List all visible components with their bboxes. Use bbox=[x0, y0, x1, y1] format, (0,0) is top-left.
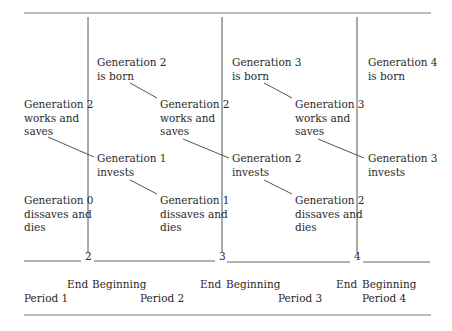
label-gen2-works-p1: Generation 2 works and saves bbox=[24, 98, 94, 139]
label-gen4-born: Generation 4 is born bbox=[368, 56, 438, 83]
axis-label-end: End bbox=[67, 278, 88, 292]
axis-label-period-2: Period 2 bbox=[140, 292, 184, 306]
connector-gen3-born-to-works bbox=[264, 83, 292, 98]
axis-label-period-1: Period 1 bbox=[24, 292, 68, 306]
connector-gen2-born-to-works bbox=[130, 83, 157, 98]
axis-label-beginning: Beginning bbox=[92, 278, 146, 292]
connector-gen2-invests-to-dies bbox=[264, 180, 292, 194]
boundary-number-4: 4 bbox=[354, 250, 361, 262]
label-gen1-invests: Generation 1 invests bbox=[97, 152, 167, 179]
label-gen2-works-p2: Generation 2 works and saves bbox=[160, 98, 230, 139]
label-gen2-born: Generation 2 is born bbox=[97, 56, 167, 83]
axis-label-end: End bbox=[200, 278, 221, 292]
axis-label-end: End bbox=[336, 278, 357, 292]
axis-label-beginning: Beginning bbox=[226, 278, 280, 292]
label-gen3-born: Generation 3 is born bbox=[232, 56, 302, 83]
label-gen1-dies: Generation 1 dissaves and dies bbox=[160, 194, 230, 235]
label-gen3-works-p3: Generation 3 works and saves bbox=[295, 98, 365, 139]
label-gen0-dies: Generation 0 dissaves and dies bbox=[24, 194, 94, 235]
label-gen3-invests: Generation 3 invests bbox=[368, 152, 438, 179]
boundary-number-2: 2 bbox=[85, 250, 92, 262]
connector-gen2-works-to-gen1-invests bbox=[48, 137, 94, 157]
connector-gen1-invests-to-dies bbox=[130, 180, 157, 194]
boundary-number-3: 3 bbox=[219, 250, 226, 262]
axis-label-period-4: Period 4 bbox=[362, 292, 406, 306]
label-gen2-dies: Generation 2 dissaves and dies bbox=[295, 194, 365, 235]
axis-label-beginning: Beginning bbox=[362, 278, 416, 292]
label-gen2-invests: Generation 2 invests bbox=[232, 152, 302, 179]
axis-label-period-3: Period 3 bbox=[278, 292, 322, 306]
